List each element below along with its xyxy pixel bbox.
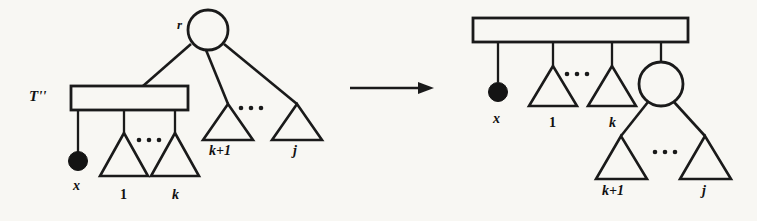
ellipsis-dot (653, 150, 658, 155)
edge-circle-to-j (674, 102, 705, 136)
subtree-triangle-kplus1 (203, 104, 253, 140)
subtree-triangle-kplus1 (596, 136, 647, 179)
label-subtree-1: 1 (549, 116, 556, 130)
ellipsis-dot (585, 72, 590, 77)
ellipsis-dot (259, 106, 264, 111)
label-root-r: r (177, 18, 182, 31)
ellipsis-dot (575, 72, 580, 77)
figure-root: T'' r x 1 k k+1 j x 1 k k+1 j (0, 0, 757, 221)
edge-root-to-child-kplus1 (206, 50, 228, 104)
subtree-triangle-j (680, 136, 731, 179)
x-leaf-dot (489, 83, 508, 102)
ellipsis-dot (157, 138, 162, 143)
ellipsis-dot (663, 150, 668, 155)
arrow-head (418, 82, 434, 94)
subtree-triangle-k (588, 66, 636, 106)
subtree-bar-rect (71, 86, 188, 110)
ellipsis-dot (137, 138, 142, 143)
left-diagram-group (69, 10, 323, 176)
ellipsis-dot (249, 106, 254, 111)
label-subtree-j: j (293, 144, 297, 158)
subtree-triangle-j (272, 104, 322, 140)
subtree-triangle-1 (529, 66, 577, 106)
root-node-circle (188, 10, 228, 50)
label-x-leaf: x (73, 179, 80, 193)
label-subtree-j: j (702, 184, 706, 198)
top-bar-rect (473, 18, 688, 42)
edge-root-to-subtree-bar (143, 44, 191, 86)
label-subtree-kplus1: k+1 (602, 184, 624, 198)
ellipsis-dot (565, 72, 570, 77)
ellipsis-dot (147, 138, 152, 143)
ellipsis-dot (239, 106, 244, 111)
right-diagram-group (473, 18, 731, 179)
label-subtree-k: k (609, 116, 616, 130)
edge-root-to-child-j (224, 44, 297, 104)
label-subtree-T-double-prime: T'' (29, 89, 47, 104)
x-leaf-dot (69, 152, 88, 171)
label-subtree-k: k (172, 188, 179, 202)
transform-arrow-group (350, 82, 434, 94)
internal-node-circle (639, 62, 683, 106)
label-subtree-1: 1 (120, 188, 127, 202)
ellipsis-dot (673, 150, 678, 155)
label-subtree-kplus1: k+1 (209, 144, 231, 158)
diagram-canvas (0, 0, 757, 221)
label-x-leaf: x (493, 112, 500, 126)
